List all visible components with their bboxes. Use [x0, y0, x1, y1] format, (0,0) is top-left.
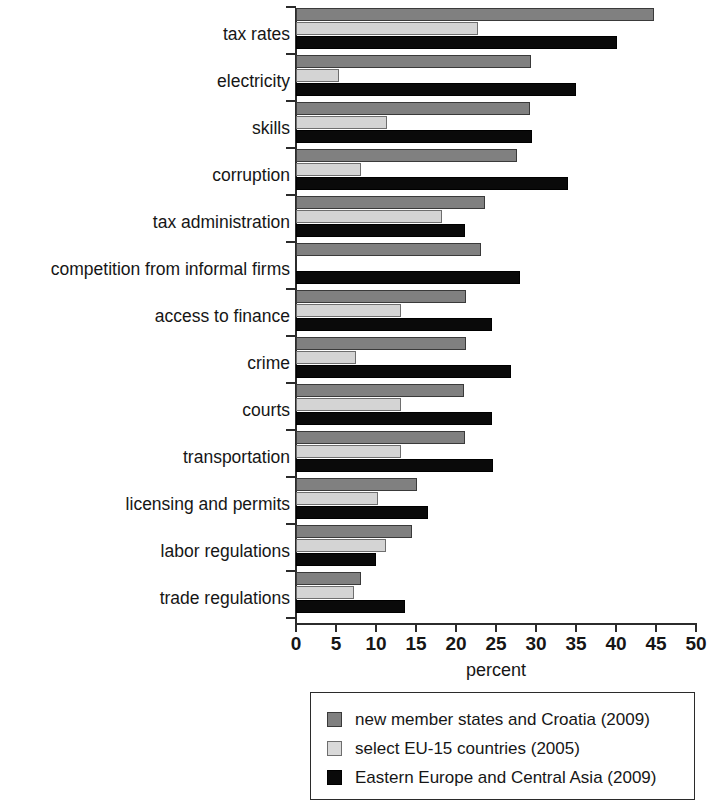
x-tick-label: 10: [356, 633, 396, 655]
bar-2: [296, 130, 532, 143]
x-axis-title: percent: [295, 660, 697, 681]
bar-1: [296, 116, 387, 129]
bar-2: [296, 83, 576, 96]
category-row: transportation: [0, 431, 709, 478]
bar-1: [296, 492, 378, 505]
category-label: corruption: [5, 167, 290, 185]
bar-1: [296, 586, 354, 599]
legend-item[interactable]: Eastern Europe and Central Asia (2009): [327, 765, 656, 789]
x-tick-label: 35: [556, 633, 596, 655]
bar-0: [296, 149, 517, 162]
bar-1: [296, 445, 401, 458]
x-tick: [295, 623, 297, 632]
legend-item[interactable]: new member states and Croatia (2009): [327, 707, 650, 731]
x-tick: [495, 623, 497, 632]
category-label: crime: [5, 355, 290, 373]
bar-2: [296, 412, 492, 425]
x-tick-label: 40: [596, 633, 636, 655]
category-row: courts: [0, 384, 709, 431]
bar-1: [296, 398, 401, 411]
bar-2: [296, 506, 428, 519]
bar-0: [296, 572, 361, 585]
category-label: labor regulations: [5, 543, 290, 561]
legend-label: new member states and Croatia (2009): [355, 711, 650, 728]
category-label: transportation: [5, 449, 290, 467]
bar-2: [296, 365, 511, 378]
bar-1: [296, 22, 478, 35]
x-tick-label: 0: [276, 633, 316, 655]
category-row: access to finance: [0, 290, 709, 337]
bar-2: [296, 271, 520, 284]
bar-1: [296, 163, 361, 176]
bar-1: [296, 351, 356, 364]
category-row: competition from informal firms: [0, 243, 709, 290]
bar-2: [296, 177, 568, 190]
bar-1: [296, 69, 339, 82]
x-tick-label: 5: [316, 633, 356, 655]
category-label: electricity: [5, 73, 290, 91]
category-row: corruption: [0, 149, 709, 196]
category-label: access to finance: [5, 308, 290, 326]
bar-1: [296, 210, 442, 223]
x-tick-label: 20: [436, 633, 476, 655]
legend-swatch-icon: [327, 741, 342, 756]
bar-0: [296, 55, 531, 68]
bar-2: [296, 553, 376, 566]
x-tick-label: 25: [476, 633, 516, 655]
x-tick: [535, 623, 537, 632]
x-tick-label: 30: [516, 633, 556, 655]
bar-2: [296, 459, 493, 472]
category-row: tax administration: [0, 196, 709, 243]
category-label: tax rates: [5, 26, 290, 44]
bar-0: [296, 290, 466, 303]
bar-1: [296, 539, 386, 552]
legend-label: Eastern Europe and Central Asia (2009): [355, 769, 656, 786]
bar-0: [296, 196, 485, 209]
bar-2: [296, 224, 465, 237]
bar-2: [296, 36, 617, 49]
bar-chart: tax rateselectricityskillscorruptiontax …: [0, 0, 709, 809]
bar-0: [296, 384, 464, 397]
category-row: skills: [0, 102, 709, 149]
legend-label: select EU-15 countries (2005): [355, 740, 580, 757]
bar-1: [296, 304, 401, 317]
x-tick: [695, 623, 697, 632]
category-row: crime: [0, 337, 709, 384]
category-label: licensing and permits: [5, 496, 290, 514]
category-row: tax rates: [0, 8, 709, 55]
x-tick-label: 50: [676, 633, 709, 655]
category-label: tax administration: [5, 214, 290, 232]
x-tick: [335, 623, 337, 632]
plot-area: tax rateselectricityskillscorruptiontax …: [0, 0, 709, 632]
x-tick: [575, 623, 577, 632]
category-label: trade regulations: [5, 590, 290, 608]
bar-0: [296, 337, 466, 350]
category-label: skills: [5, 120, 290, 138]
legend-swatch-icon: [327, 770, 342, 785]
x-tick: [615, 623, 617, 632]
category-row: trade regulations: [0, 572, 709, 619]
bar-0: [296, 478, 417, 491]
bar-0: [296, 431, 465, 444]
bar-0: [296, 102, 530, 115]
bar-0: [296, 525, 412, 538]
bar-2: [296, 600, 405, 613]
category-row: electricity: [0, 55, 709, 102]
legend-swatch-icon: [327, 712, 342, 727]
x-tick: [415, 623, 417, 632]
category-row: labor regulations: [0, 525, 709, 572]
legend-item[interactable]: select EU-15 countries (2005): [327, 736, 580, 760]
category-row: licensing and permits: [0, 478, 709, 525]
x-tick-label: 45: [636, 633, 676, 655]
x-tick: [455, 623, 457, 632]
bar-0: [296, 8, 654, 21]
bar-0: [296, 243, 481, 256]
category-label: competition from informal firms: [5, 261, 290, 279]
category-label: courts: [5, 402, 290, 420]
x-tick-label: 15: [396, 633, 436, 655]
chart-legend: new member states and Croatia (2009)sele…: [310, 692, 695, 800]
bar-2: [296, 318, 492, 331]
x-tick: [655, 623, 657, 632]
x-tick: [375, 623, 377, 632]
